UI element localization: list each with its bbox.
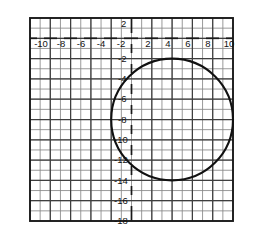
y-tick-label--12: -12 xyxy=(114,154,128,165)
y-tick-label--4: -4 xyxy=(118,73,126,84)
x-tick-label--2: -2 xyxy=(117,38,125,49)
y-tick-label-2: 2 xyxy=(121,18,126,29)
y-tick-label--10: -10 xyxy=(114,134,128,145)
y-tick-label--16: -16 xyxy=(114,195,128,206)
x-tick-label-2: 2 xyxy=(145,38,150,49)
x-tick-label--6: -6 xyxy=(77,38,85,49)
x-tick-label--10: -10 xyxy=(34,38,48,49)
x-tick-label--4: -4 xyxy=(97,38,105,49)
x-tick-label-8: 8 xyxy=(205,38,210,49)
y-tick-label--14: -14 xyxy=(114,175,128,186)
y-tick-label--2: -2 xyxy=(118,53,126,64)
coordinate-plane: -10 -8 -6 -4 -2 2 4 6 8 10 2 -2 -4 -6 -8… xyxy=(0,0,254,251)
x-tick-label-10: 10 xyxy=(224,38,235,49)
y-tick-label--6: -6 xyxy=(118,93,126,104)
x-tick-label--8: -8 xyxy=(57,38,65,49)
x-tick-label-6: 6 xyxy=(185,38,190,49)
y-tick-label--8: -8 xyxy=(118,114,126,125)
graph-figure: -10 -8 -6 -4 -2 2 4 6 8 10 2 -2 -4 -6 -8… xyxy=(0,0,254,251)
x-tick-label-4: 4 xyxy=(165,38,170,49)
y-tick-label--18: -18 xyxy=(114,215,128,226)
